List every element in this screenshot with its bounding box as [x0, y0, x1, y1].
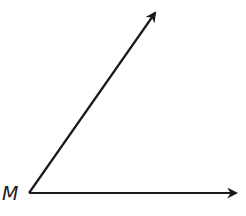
- angle-diagram: [0, 0, 246, 216]
- upper-ray: [29, 13, 155, 193]
- vertex-label-m: M: [2, 184, 18, 203]
